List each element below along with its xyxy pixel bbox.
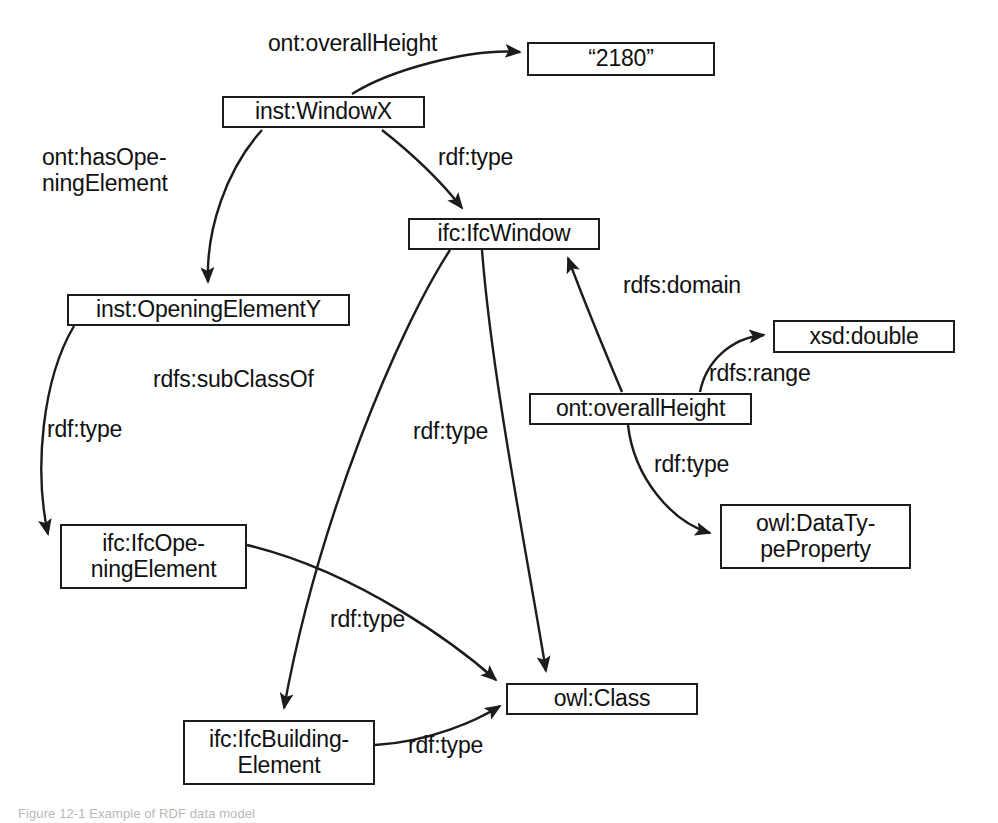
graph-edge-e-hasOpeningElement	[208, 130, 262, 282]
graph-node-owlClass: owl:Class	[506, 683, 698, 715]
graph-edge-e-domain	[568, 258, 622, 392]
edge-label-e-buildingelement-type-class: rdf:type	[408, 733, 483, 759]
graph-node-ontOverallHeight: ont:overallHeight	[529, 393, 752, 425]
edge-label-e-prop-type: rdf:type	[654, 452, 729, 478]
edge-label-e-window-subclassof: rdfs:subClassOf	[153, 367, 314, 393]
graph-node-ifcIfcOpeningElement: ifc:IfcOpe- ningElement	[60, 524, 247, 589]
graph-edge-e-prop-type	[628, 425, 710, 533]
graph-node-ifcIfcBuildingElement: ifc:IfcBuilding- Element	[183, 720, 375, 785]
graph-node-instWindowX: inst:WindowX	[222, 96, 425, 128]
graph-node-literal2180: “2180”	[527, 42, 715, 76]
graph-edge-e-window-type-class	[482, 250, 546, 671]
graph-node-owlDataTypeProperty: owl:DataTy- peProperty	[720, 504, 911, 569]
edge-label-e-opening-type-class: rdf:type	[330, 607, 405, 633]
graph-node-ifcIfcWindow: ifc:IfcWindow	[408, 218, 600, 250]
edge-label-e-domain: rdfs:domain	[623, 273, 741, 299]
graph-node-xsdDouble: xsd:double	[773, 320, 955, 353]
edge-layer	[0, 0, 998, 823]
figure-caption: Figure 12-1 Example of RDF data model	[18, 806, 255, 821]
graph-node-instOpeningElementY: inst:OpeningElementY	[67, 294, 350, 326]
edge-label-e-overallHeight-literal: ont:overallHeight	[268, 31, 437, 57]
graph-edge-e-overallHeight-literal	[352, 52, 520, 94]
edge-label-e-windowX-type: rdf:type	[438, 145, 513, 171]
edge-label-e-openingY-type: rdf:type	[47, 417, 122, 443]
edge-label-e-range: rdfs:range	[709, 361, 811, 387]
edge-label-e-window-type-class: rdf:type	[413, 419, 488, 445]
edge-label-e-hasOpeningElement: ont:hasOpe- ningElement	[42, 145, 168, 197]
rdf-graph-figure: inst:WindowX“2180”inst:OpeningElementYif…	[0, 0, 998, 823]
